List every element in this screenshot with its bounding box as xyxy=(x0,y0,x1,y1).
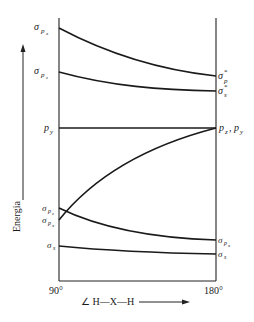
svg-text:p: p xyxy=(40,71,45,79)
svg-text:y: y xyxy=(239,128,244,136)
right-label-sigma-s: σs xyxy=(218,249,227,260)
y-axis-arrow-head-icon xyxy=(21,44,26,52)
svg-text:,: , xyxy=(229,122,232,133)
svg-text:p: p xyxy=(40,27,45,35)
right-label-pz-py: pz,py xyxy=(218,122,244,136)
right-label-sigma-s-star: σs* xyxy=(218,83,228,99)
svg-text:p: p xyxy=(47,208,51,214)
svg-text:σ: σ xyxy=(34,65,40,76)
svg-text:s: s xyxy=(224,91,227,99)
svg-text:p: p xyxy=(223,240,227,246)
svg-text:*: * xyxy=(224,68,228,76)
x-axis-arrow-head-icon xyxy=(182,300,190,305)
svg-text:σ: σ xyxy=(218,235,223,245)
walsh-diagram: σpx σpz py σpz σpx σs σp* σs* pz,py σpx … xyxy=(0,0,254,322)
svg-text:x: x xyxy=(227,243,231,248)
svg-text:s: s xyxy=(53,245,56,251)
svg-text:z: z xyxy=(51,211,54,216)
svg-text:p: p xyxy=(233,122,239,133)
curve-sigma-s-bonding xyxy=(59,246,216,254)
svg-text:p: p xyxy=(218,122,224,133)
x-axis-label: ∠ H—X—H xyxy=(81,296,134,307)
curve-sigma-px-bonding xyxy=(59,208,216,240)
svg-text:x: x xyxy=(51,223,55,228)
left-label-sigma-px-top: σpx xyxy=(34,21,49,36)
svg-text:s: s xyxy=(224,254,227,260)
curve-sigma-px-antibonding xyxy=(59,28,216,76)
left-label-sigma-pz-upper: σpz xyxy=(34,65,48,80)
x-start-label: 90° xyxy=(49,285,63,296)
svg-text:z: z xyxy=(45,75,48,80)
left-label-py: py xyxy=(43,122,54,136)
svg-text:z: z xyxy=(224,128,228,136)
svg-text:σ: σ xyxy=(34,21,40,32)
svg-text:y: y xyxy=(49,128,54,136)
svg-text:p: p xyxy=(47,220,51,226)
curve-pz-rising xyxy=(59,128,216,220)
curve-sigma-pz-antibonding xyxy=(59,72,216,91)
left-label-sigma-s: σs xyxy=(47,240,56,251)
x-end-label: 180° xyxy=(204,285,223,296)
svg-text:*: * xyxy=(224,83,228,91)
right-label-sigma-px: σpx xyxy=(218,235,231,248)
svg-text:σ: σ xyxy=(42,215,47,225)
svg-text:p: p xyxy=(43,122,49,133)
svg-text:x: x xyxy=(45,31,49,36)
svg-text:σ: σ xyxy=(42,203,47,213)
svg-text:σ: σ xyxy=(218,249,223,259)
svg-text:σ: σ xyxy=(47,240,52,250)
left-label-sigma-px-lower: σpx xyxy=(42,215,55,228)
y-axis-label: Energia xyxy=(11,201,22,232)
